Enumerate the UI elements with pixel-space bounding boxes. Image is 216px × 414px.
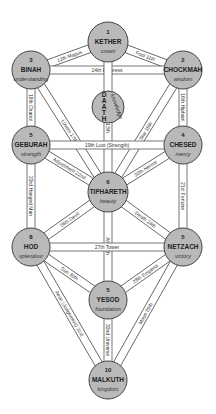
path-label: 28th Emperor [131,262,159,285]
path-label: Death 24th [134,210,157,229]
sephirah-quality: understanding [14,76,50,82]
path-label: 32nd Universe [105,324,111,356]
sephirah-name: NETZACH [167,243,198,250]
path-hod-netzach: 27th Tower [31,243,183,251]
sephirah-quality: mercy [176,151,192,157]
sephirah-malkuth: 10MALKUTHkingdom [89,361,127,399]
path-label: Lovers 17th [60,118,79,143]
tree-of-life-diagram: 12th MagusFool 11th14th EmpressPriestess… [0,0,216,414]
sephirah-daath: DAATHknowledge [92,91,124,123]
path-label: Adjustment 22nd [52,156,87,181]
sephirah-quality: victory [175,253,192,259]
sephirah-quality: splendour [19,253,44,259]
sephirah-name: CHESED [169,141,196,148]
sephirah-name: TIPHARETH [89,188,127,195]
path-label: 16th Hiphant [180,93,186,122]
path-label: Aeon (Judgement) 31st [54,289,86,338]
sephirah-chockmah: 2CHOCKMAHwisdom [164,51,203,89]
sephirah-number: 10 [105,367,112,373]
path-label: 20th Hermit [133,159,159,178]
path-label: 23rd Hanged Man [28,176,34,216]
path-label: 19th Lust (Strength) [85,142,130,148]
sephirah-quality: beauty [100,198,118,204]
sephirah-name: YESOD [97,296,120,303]
sephirah-hod: 8HODsplendour [12,228,50,266]
path-label: 27th Tower [95,244,120,250]
sephirah-netzach: 5NETZACHvictory [164,228,202,266]
sephirah-name: HOD [24,243,39,250]
svg-text:H: H [102,115,107,122]
sephirah-kether: 1KETHERcrown [88,22,128,62]
sephirah-quality: foundation [95,306,121,312]
sephirah-chesed: 4CHESEDmercy [164,126,202,164]
sephirah-name: KETHER [95,38,122,45]
path-geburah-chesed: 19th Lust (Strength) [31,141,183,149]
sephirah-quality: crown [101,48,116,54]
sephirah-tiphareth: 6TIPHARETHbeauty [88,172,128,212]
sephirah-quality: wisdom [174,76,193,82]
sephirah-name: MALKUTH [92,376,124,383]
sephirah-geburah: 5GEBURAHstrength [12,126,50,164]
sephirah-quality: strength [21,151,41,157]
sephirah-name: BINAH [21,66,42,73]
sephirah-quality: kingdom [98,386,119,392]
sephirah-yesod: 5YESODfoundation [89,281,127,319]
sephirah-binah: 3BINAHunderstanding [12,51,50,89]
sephirah-name: CHOCKMAH [164,66,203,73]
path-label: 18th Chariot [28,94,34,122]
path-label: 21st Fortune [180,182,186,210]
sephirah-name: GEBURAH [15,141,48,148]
